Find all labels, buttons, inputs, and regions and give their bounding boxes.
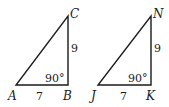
triangle-abc: A B C 7 9 90° [7,7,79,103]
triangle-jkn: J K N 7 9 90° [88,7,164,103]
side-label-ab: 7 [36,90,43,103]
triangles-diagram: A B C 7 9 90° J K N 7 9 90° [0,0,169,107]
angle-label-k: 90° [128,72,148,85]
side-label-kn: 9 [154,42,161,55]
side-label-jk: 7 [120,90,127,103]
vertex-label-j: J [88,89,97,103]
angle-label-b: 90° [45,72,65,85]
side-label-bc: 9 [71,42,78,55]
vertex-label-n: N [152,7,164,21]
vertex-label-b: B [62,89,72,103]
vertex-label-a: A [7,89,17,103]
vertex-label-c: C [70,7,79,21]
vertex-label-k: K [145,89,156,103]
